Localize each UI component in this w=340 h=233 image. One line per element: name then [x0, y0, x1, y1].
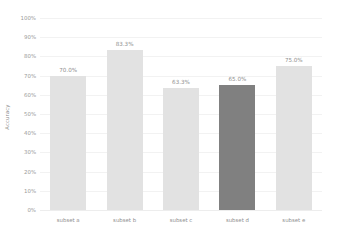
- y-tick-label: 0%: [27, 207, 36, 213]
- bars-layer: 70.0%subset a83.3%subset b63.3%subset c6…: [40, 18, 322, 210]
- bar-chart: Accuracy 0%10%20%30%40%50%60%70%80%90%10…: [0, 0, 340, 233]
- x-tick-label: subset c: [155, 217, 207, 223]
- y-tick-label: 70%: [24, 73, 36, 79]
- x-tick-label: subset d: [211, 217, 263, 223]
- y-tick-label: 50%: [24, 111, 36, 117]
- bar-group: 63.3%subset c: [155, 18, 207, 210]
- bar-group: 65.0%subset d: [211, 18, 263, 210]
- y-tick-label: 30%: [24, 149, 36, 155]
- y-tick-label: 20%: [24, 169, 36, 175]
- x-tick-label: subset e: [268, 217, 320, 223]
- bar-group: 83.3%subset b: [99, 18, 151, 210]
- plot-area: 0%10%20%30%40%50%60%70%80%90%100% 70.0%s…: [40, 18, 322, 210]
- bar-value-label: 65.0%: [211, 76, 263, 82]
- y-tick-label: 10%: [24, 188, 36, 194]
- bar[interactable]: [276, 66, 312, 210]
- bar[interactable]: [50, 76, 86, 210]
- y-tick-label: 60%: [24, 92, 36, 98]
- bar[interactable]: [219, 85, 255, 210]
- gridline: 0%: [40, 210, 322, 211]
- bar-value-label: 83.3%: [99, 41, 151, 47]
- y-tick-label: 80%: [24, 53, 36, 59]
- y-tick-label: 100%: [21, 15, 36, 21]
- bar[interactable]: [107, 50, 143, 210]
- bar-value-label: 63.3%: [155, 79, 207, 85]
- bar-value-label: 75.0%: [268, 57, 320, 63]
- bar-value-label: 70.0%: [42, 67, 94, 73]
- x-tick-label: subset b: [99, 217, 151, 223]
- bar-group: 75.0%subset e: [268, 18, 320, 210]
- bar-group: 70.0%subset a: [42, 18, 94, 210]
- y-tick-label: 90%: [24, 34, 36, 40]
- bar[interactable]: [163, 88, 199, 210]
- x-tick-label: subset a: [42, 217, 94, 223]
- y-axis-title: Accuracy: [0, 0, 14, 233]
- y-axis-title-label: Accuracy: [4, 104, 10, 129]
- y-tick-label: 40%: [24, 130, 36, 136]
